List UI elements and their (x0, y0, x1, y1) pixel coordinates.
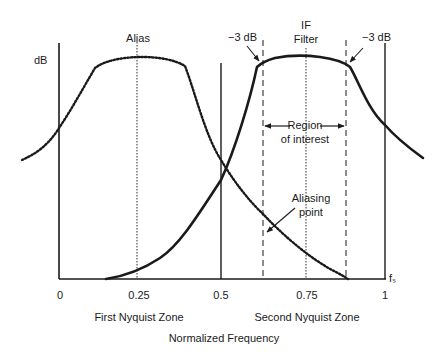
first-nyquist-zone-label: First Nyquist Zone (94, 311, 183, 323)
tick-05: 0.5 (213, 289, 228, 301)
aliasing-point-arrow (267, 208, 295, 232)
tick-0: 0 (57, 289, 63, 301)
if-filter-curve (106, 56, 423, 279)
tick-025: 0.25 (128, 289, 149, 301)
diagram-canvas: dB Alias IF Filter −3 dB −3 dB Region of… (0, 0, 440, 352)
if-filter-label-1: IF (301, 19, 311, 31)
minus3db-right-arrow (350, 48, 363, 62)
tick-1: 1 (382, 289, 388, 301)
aliasing-label-1: Aliasing (292, 192, 331, 204)
x-axis-label: Normalized Frequency (169, 332, 280, 344)
region-label-2: of interest (281, 133, 329, 145)
if-filter-label-2: Filter (294, 33, 319, 45)
minus3db-left-arrow (247, 46, 259, 61)
minus3db-left-label: −3 dB (228, 31, 257, 43)
alias-curve (22, 57, 348, 279)
tick-075: 0.75 (296, 289, 317, 301)
region-label-1: Region (288, 119, 323, 131)
alias-label: Alias (126, 32, 150, 44)
minus3db-right-label: −3 dB (362, 31, 391, 43)
aliasing-label-2: point (299, 206, 323, 218)
y-axis-label: dB (34, 54, 47, 66)
fs-label: fₛ (389, 272, 396, 284)
second-nyquist-zone-label: Second Nyquist Zone (254, 311, 359, 323)
